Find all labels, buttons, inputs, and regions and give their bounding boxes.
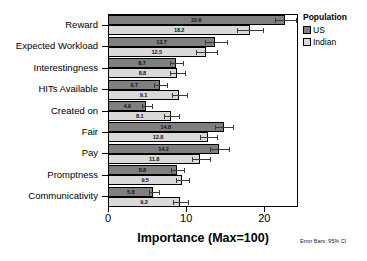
error-bar-cap: [205, 40, 206, 45]
error-bar-cap: [217, 135, 218, 140]
error-bar-cap: [164, 114, 165, 119]
error-bar-cap: [176, 178, 177, 183]
y-axis-tick: [102, 89, 109, 90]
bar-value-label: 9.5: [108, 175, 182, 185]
legend-swatch-us: [303, 26, 311, 34]
error-bar: [170, 73, 185, 74]
error-bar: [176, 180, 189, 181]
bar-value-label: 4.9: [108, 101, 146, 111]
error-bar: [164, 116, 179, 117]
error-bar: [275, 20, 296, 21]
error-bar-cap: [192, 157, 193, 162]
bar-value-label: 9.2: [108, 197, 180, 207]
legend-item-indian[interactable]: Indian: [303, 37, 365, 47]
error-bar-cap: [170, 61, 171, 66]
error-bar: [237, 30, 263, 31]
y-axis-tick: [102, 153, 109, 154]
y-axis-label: Fair: [0, 127, 98, 137]
legend-title: Population: [303, 12, 365, 22]
y-axis-category-labels: RewardExpected WorkloadInterestingnessHI…: [0, 14, 104, 207]
error-bar-cap: [185, 71, 186, 76]
error-bar-cap: [217, 50, 218, 55]
y-axis-label: Reward: [0, 20, 98, 30]
legend: Population US Indian: [303, 12, 365, 49]
legend-swatch-indian: [303, 38, 311, 46]
error-bar-cap: [159, 190, 160, 195]
error-bar-cap: [188, 200, 189, 205]
error-bar-cap: [187, 93, 188, 98]
error-bar-cap: [170, 71, 171, 76]
bar-value-label: 8.7: [108, 58, 176, 68]
x-axis-title: Importance (Max=100): [108, 231, 298, 245]
error-bar: [170, 63, 183, 64]
bar-chart: RewardExpected WorkloadInterestingnessHI…: [0, 0, 367, 261]
error-bar-cap: [200, 135, 201, 140]
error-bar: [200, 137, 216, 138]
error-bar-cap: [142, 104, 143, 109]
error-bar: [210, 149, 230, 150]
error-bar-cap: [229, 147, 230, 152]
error-bar-cap: [189, 178, 190, 183]
y-axis-label: Communicativity: [0, 191, 98, 201]
error-bar-cap: [152, 104, 153, 109]
y-axis-label: Created on: [0, 106, 98, 116]
error-bar: [196, 52, 217, 53]
error-bar-cap: [196, 50, 197, 55]
error-bar-cap: [263, 28, 264, 33]
error-bar-cap: [171, 168, 172, 173]
y-axis-tick: [102, 132, 109, 133]
legend-label-us: US: [313, 25, 325, 35]
x-axis-tick-label: 20: [258, 212, 270, 224]
y-axis-tick: [102, 68, 109, 69]
y-axis-label: Interestingness: [0, 63, 98, 73]
y-axis-label: HITs Available: [0, 84, 98, 94]
bar-value-label: 6.7: [108, 80, 160, 90]
bar-value-label: 13.7: [108, 37, 215, 47]
bar-value-label: 8.1: [108, 111, 171, 121]
error-bar: [171, 170, 184, 171]
bar-value-label: 14.8: [108, 122, 224, 132]
bar-value-label: 12.5: [108, 47, 206, 57]
error-bar: [192, 159, 209, 160]
bar-value-label: 5.8: [108, 187, 153, 197]
x-axis-tick-label: 0: [105, 212, 111, 224]
error-bar: [172, 95, 187, 96]
error-bar-cap: [227, 40, 228, 45]
error-bar: [205, 42, 227, 43]
error-bar-cap: [215, 125, 216, 130]
error-bar-cap: [210, 157, 211, 162]
error-bar: [173, 202, 188, 203]
y-axis-tick: [102, 196, 109, 197]
error-bar-cap: [233, 125, 234, 130]
y-axis-label: Promptness: [0, 170, 98, 180]
bar-value-label: 18.2: [108, 25, 250, 35]
bar-value-label: 14.2: [108, 144, 219, 154]
bar-value-label: 12.8: [108, 132, 208, 142]
error-bar-cap: [149, 190, 150, 195]
y-axis-label: Pay: [0, 148, 98, 158]
error-bar-cap: [154, 83, 155, 88]
error-bar-cap: [184, 168, 185, 173]
error-bar: [215, 127, 233, 128]
bar-value-label: 8.8: [108, 165, 177, 175]
error-bar: [149, 192, 159, 193]
error-bar-cap: [173, 200, 174, 205]
error-bars-note: Error Bars: 95% CI: [300, 238, 346, 244]
error-bar-cap: [183, 61, 184, 66]
bar-value-label: 9.1: [108, 90, 179, 100]
error-bar-cap: [167, 83, 168, 88]
error-bar-cap: [237, 28, 238, 33]
y-axis-tick: [102, 46, 109, 47]
legend-item-us[interactable]: US: [303, 25, 365, 35]
bar-value-label: 11.8: [108, 154, 200, 164]
error-bar-cap: [210, 147, 211, 152]
x-axis-tick-label: 10: [180, 212, 192, 224]
error-bar-cap: [275, 18, 276, 23]
error-bar: [154, 85, 167, 86]
bar-value-label: 8.8: [108, 68, 177, 78]
y-axis-tick: [102, 175, 109, 176]
bar-value-label: 22.6: [108, 15, 285, 25]
y-axis-tick: [102, 25, 109, 26]
error-bar-cap: [172, 93, 173, 98]
legend-label-indian: Indian: [313, 37, 336, 47]
